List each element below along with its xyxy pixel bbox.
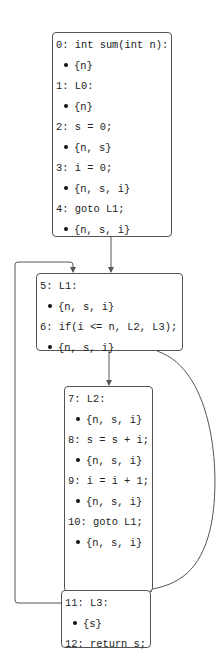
cfg-node-b2: 7: L2: {n, s, i} 8: s = s + i; {n, s, i}…	[64, 386, 153, 592]
fact-text: {n}	[74, 101, 93, 113]
fact-text: {n}	[74, 60, 93, 72]
fact-line: {n, s, i}	[40, 338, 182, 359]
fact-line: {s}	[65, 614, 150, 635]
fact-line: {n, s, i}	[68, 492, 152, 513]
bullet-icon	[64, 63, 68, 67]
stmt-line: 0: int sum(int n):	[56, 35, 171, 56]
fact-text: {n, s, i}	[86, 455, 142, 467]
stmt-line: 12: return s;	[65, 634, 150, 655]
fact-line: {n, s, i}	[68, 451, 152, 472]
bullet-icon	[64, 186, 68, 190]
fact-line: {n}	[56, 56, 171, 77]
fact-text: {n, s}	[74, 142, 111, 154]
bullet-icon	[73, 621, 77, 625]
stmt-line: 6: if(i <= n, L2, L3);	[40, 317, 182, 338]
stmt-line: 5: L1:	[40, 276, 182, 297]
fact-line: {n, s}	[56, 138, 171, 159]
stmt-line: 9: i = i + 1;	[68, 471, 152, 492]
fact-text: {n, s, i}	[86, 496, 142, 508]
fact-line: {n, s, i}	[56, 179, 171, 200]
fact-text: {n, s, i}	[58, 342, 114, 354]
cfg-node-b1: 5: L1: {n, s, i} 6: if(i <= n, L2, L3); …	[36, 273, 183, 351]
bullet-icon	[76, 417, 80, 421]
bullet-icon	[76, 499, 80, 503]
fact-text: {s}	[83, 618, 102, 630]
edge-b1-b3	[147, 351, 215, 590]
stmt-line: 2: s = 0;	[56, 117, 171, 138]
fact-line: {n, s, i}	[56, 220, 171, 241]
bullet-icon	[48, 304, 52, 308]
stmt-line: 1: L0:	[56, 76, 171, 97]
stmt-line: 8: s = s + i;	[68, 430, 152, 451]
stmt-line: 10: goto L1;	[68, 512, 152, 533]
fact-line: {n, s, i}	[40, 297, 182, 318]
bullet-icon	[64, 104, 68, 108]
cfg-node-b0: 0: int sum(int n): {n} 1: L0: {n} 2: s =…	[52, 32, 172, 237]
stmt-line: 3: i = 0;	[56, 158, 171, 179]
fact-text: {n, s, i}	[86, 537, 142, 549]
cfg-node-b3: 11: L3: {s} 12: return s;	[61, 590, 151, 648]
stmt-line: 11: L3:	[65, 593, 150, 614]
fact-text: {n, s, i}	[86, 414, 142, 426]
bullet-icon	[76, 458, 80, 462]
fact-text: {n, s, i}	[58, 301, 114, 313]
bullet-icon	[64, 227, 68, 231]
fact-line: {n, s, i}	[68, 533, 152, 554]
bullet-icon	[64, 145, 68, 149]
fact-text: {n, s, i}	[74, 224, 130, 236]
stmt-line: 7: L2:	[68, 389, 152, 410]
fact-line: {n}	[56, 97, 171, 118]
stmt-line: 4: goto L1;	[56, 199, 171, 220]
bullet-icon	[48, 345, 52, 349]
fact-line: {n, s, i}	[68, 410, 152, 431]
fact-text: {n, s, i}	[74, 183, 130, 195]
bullet-icon	[76, 540, 80, 544]
